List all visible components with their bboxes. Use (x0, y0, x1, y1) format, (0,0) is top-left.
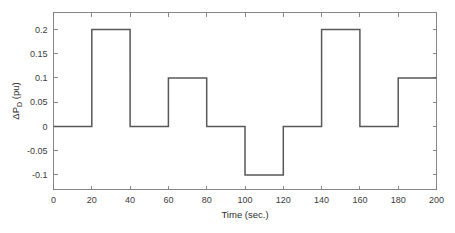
x-axis-tick-labels: 020406080100120140160180200 (51, 195, 444, 205)
x-tick-label: 180 (391, 195, 406, 205)
x-axis-title: Time (sec.) (221, 209, 268, 220)
y-tick-label: 0.05 (30, 97, 48, 107)
x-tick-label: 200 (429, 195, 444, 205)
x-tick-label: 60 (163, 195, 173, 205)
y-axis-tick-labels: -0.1-0.0500.050.10.150.2 (27, 25, 48, 180)
x-tick-label: 120 (276, 195, 291, 205)
step-waveform-trace (54, 29, 437, 174)
y-tick-label: -0.1 (32, 170, 48, 180)
x-tick-label: 40 (125, 195, 135, 205)
y-tick-label: -0.05 (27, 146, 48, 156)
chart-canvas: -0.1-0.0500.050.10.150.2 020406080100120… (0, 0, 455, 233)
y-axis-title-main: ΔP (10, 107, 21, 120)
x-tick-label: 80 (202, 195, 212, 205)
y-tick-label: 0.2 (35, 25, 48, 35)
y-axis-title-group: ΔPD (pu) (10, 82, 23, 119)
y-tick-label: 0 (42, 122, 47, 132)
x-tick-label: 0 (51, 195, 56, 205)
y-tick-label: 0.1 (35, 73, 48, 83)
x-tick-label: 160 (352, 195, 367, 205)
x-tick-label: 20 (87, 195, 97, 205)
y-tick-label: 0.15 (30, 49, 48, 59)
y-axis-title-unit: (pu) (10, 82, 21, 102)
figure-container: -0.1-0.0500.050.10.150.2 020406080100120… (0, 0, 455, 233)
x-tick-label: 140 (314, 195, 329, 205)
x-tick-label: 100 (237, 195, 252, 205)
y-axis-title: ΔPD (pu) (10, 82, 23, 119)
